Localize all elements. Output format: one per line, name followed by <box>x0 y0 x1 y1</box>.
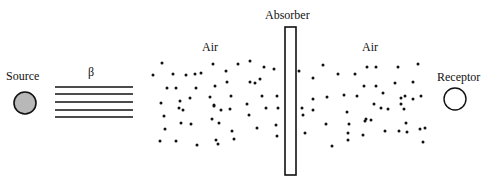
air-particle <box>185 74 188 77</box>
air-particles-left <box>152 60 280 147</box>
air-particle <box>179 100 182 103</box>
air-particle <box>175 87 178 90</box>
air-particle <box>406 131 409 134</box>
air-particle <box>196 144 199 147</box>
air-particle <box>384 130 387 133</box>
diagram-svg <box>0 0 495 187</box>
air-particle <box>347 139 350 142</box>
air-particle <box>312 77 315 80</box>
receptor-label: Receptor <box>437 70 480 85</box>
air-particle <box>180 122 183 125</box>
air-particle <box>159 140 162 143</box>
air-particle <box>400 103 403 106</box>
air-particle <box>214 85 217 88</box>
beta-label: β <box>88 65 94 80</box>
air-particle <box>175 140 178 143</box>
air-particle <box>259 78 262 81</box>
air-particle <box>249 60 252 63</box>
air-particle <box>312 109 315 112</box>
air-particle <box>404 95 407 98</box>
air-particle <box>249 81 252 84</box>
air-particle <box>417 63 420 66</box>
air-particle <box>160 102 163 105</box>
beta-beam-lines <box>55 87 133 117</box>
air-particle <box>302 114 305 117</box>
air-particle <box>343 94 346 97</box>
air-particle <box>220 109 223 112</box>
air-particle <box>387 108 390 111</box>
air-particle <box>218 122 221 125</box>
air-particle <box>424 127 427 130</box>
air-particle <box>366 66 369 69</box>
air-particle <box>209 96 212 99</box>
air-particle <box>211 118 214 121</box>
air-particle <box>362 134 365 137</box>
diagram-canvas: Source β Air Absorber Air Receptor <box>0 0 495 187</box>
air-particle <box>322 64 325 67</box>
air-particle <box>194 73 197 76</box>
air-particle <box>373 103 376 106</box>
air-particle <box>225 70 228 73</box>
absorber-label: Absorber <box>265 8 310 23</box>
air-particle <box>213 104 216 107</box>
air-particle <box>412 98 415 101</box>
air-particle <box>189 97 192 100</box>
air-particle <box>400 97 403 100</box>
air-left-label: Air <box>202 40 218 55</box>
air-particle <box>275 124 278 127</box>
air-particle <box>276 95 279 98</box>
air-particle <box>346 111 349 114</box>
air-particle <box>212 63 215 66</box>
air-particle <box>405 122 408 125</box>
air-particle <box>325 123 328 126</box>
source-label: Source <box>6 69 39 84</box>
air-particle <box>326 96 329 99</box>
air-particle <box>403 108 406 111</box>
air-particle <box>265 107 268 110</box>
air-particle <box>172 73 175 76</box>
air-particle <box>363 85 366 88</box>
air-particle <box>419 128 422 131</box>
air-particle <box>375 66 378 69</box>
air-particle <box>248 114 251 117</box>
air-particle <box>190 123 193 126</box>
air-particle <box>182 109 185 112</box>
air-particle <box>230 95 233 98</box>
air-particle <box>380 107 383 110</box>
air-particle <box>161 62 164 65</box>
air-particle <box>331 145 334 148</box>
absorber-slab <box>285 27 296 175</box>
air-particle <box>298 70 301 73</box>
air-particle <box>412 81 415 84</box>
air-particle <box>370 119 373 122</box>
air-particle <box>348 123 351 126</box>
air-particle <box>382 92 385 95</box>
air-particle <box>256 127 259 130</box>
air-particle <box>178 107 181 110</box>
receptor-icon <box>444 88 466 110</box>
air-particle <box>229 108 232 111</box>
air-particle <box>277 107 280 110</box>
air-particle <box>397 66 400 69</box>
air-right-label: Air <box>362 40 378 55</box>
air-particles-right <box>298 63 427 148</box>
air-particle <box>164 128 167 131</box>
air-particle <box>354 73 357 76</box>
air-particle <box>166 87 169 90</box>
air-particle <box>246 103 249 106</box>
air-particle <box>254 82 257 85</box>
air-particle <box>237 63 240 66</box>
source-icon <box>14 92 36 114</box>
air-particle <box>273 68 276 71</box>
air-particle <box>163 115 166 118</box>
air-particle <box>394 82 397 85</box>
air-particle <box>195 87 198 90</box>
air-particle <box>233 138 236 141</box>
air-particle <box>276 135 279 138</box>
air-particle <box>375 85 378 88</box>
air-particle <box>365 118 368 121</box>
air-particle <box>217 143 220 146</box>
air-particle <box>356 95 359 98</box>
air-particle <box>337 73 340 76</box>
air-particle <box>226 81 229 84</box>
